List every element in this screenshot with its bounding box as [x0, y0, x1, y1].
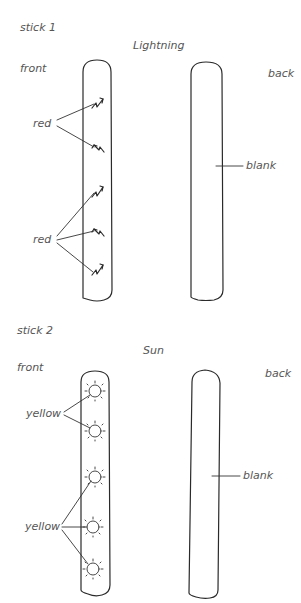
- sun-icon: [85, 381, 105, 401]
- lightning-icon: [92, 145, 104, 152]
- yellow-callout-lines-1: [64, 395, 90, 428]
- sun-icon: [85, 467, 105, 487]
- stick1-theme-label: Lightning: [133, 40, 184, 51]
- stick1-back-label: back: [268, 68, 294, 79]
- stick1-front-outline: [83, 60, 112, 301]
- lightning-icon: [92, 98, 103, 108]
- stick2-front-label: front: [17, 362, 43, 373]
- stick1-blank-label: blank: [246, 160, 276, 171]
- lightning-icon: [92, 264, 103, 275]
- red-callout-lines-2: [57, 193, 94, 272]
- stick2-back-outline: [189, 370, 220, 598]
- stick1-label: stick 1: [20, 22, 56, 33]
- yellow-callout-lines-2: [62, 481, 91, 564]
- sun-icon: [85, 421, 105, 441]
- yellow-label-1: yellow: [26, 408, 61, 419]
- lightning-icon: [92, 186, 103, 197]
- stick1-back-outline: [191, 62, 223, 301]
- red-callout-lines-1: [57, 104, 94, 147]
- stick2-back-label: back: [265, 368, 291, 379]
- diagram-art: [0, 0, 301, 603]
- stick2-theme-label: Sun: [143, 345, 164, 356]
- stick2-blank-label: blank: [243, 470, 273, 481]
- yellow-label-2: yellow: [25, 521, 60, 532]
- red-label-1: red: [33, 118, 51, 129]
- lightning-icon: [92, 229, 104, 236]
- stick1-front-label: front: [20, 63, 46, 74]
- stick2-label: stick 2: [17, 325, 53, 336]
- red-label-2: red: [33, 234, 51, 245]
